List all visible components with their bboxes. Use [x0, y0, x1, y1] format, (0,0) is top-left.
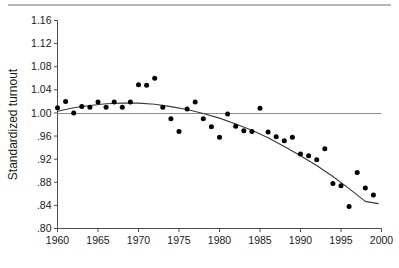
- data-point: [209, 124, 214, 129]
- data-point: [217, 135, 222, 140]
- data-point: [55, 105, 60, 110]
- data-point: [144, 83, 149, 88]
- data-point: [160, 105, 165, 110]
- data-point: [290, 135, 295, 140]
- x-axis-tick-label: 1990: [289, 234, 313, 246]
- y-axis-tick-label: 1.08: [31, 60, 52, 72]
- data-point: [152, 76, 157, 81]
- y-axis-tick-label: .88: [37, 176, 52, 188]
- x-axis-tick-label: 1970: [127, 234, 151, 246]
- data-point: [306, 153, 311, 158]
- data-point: [96, 99, 101, 104]
- data-point: [314, 157, 319, 162]
- y-axis-title: Standardized turnout: [6, 68, 20, 180]
- y-axis-tick-label: 1.00: [31, 107, 52, 119]
- fitted-trend-curve: [58, 103, 379, 204]
- data-point: [298, 151, 303, 156]
- data-point: [241, 128, 246, 133]
- y-axis-tick-label: 1.16: [31, 14, 52, 26]
- y-axis-tick-label: 1.12: [31, 37, 52, 49]
- x-axis-tick-label: 1975: [167, 234, 191, 246]
- data-point: [193, 99, 198, 104]
- data-point: [330, 181, 335, 186]
- data-point: [355, 170, 360, 175]
- data-point: [112, 99, 117, 104]
- scatter-plot-canvas: .80.84.88.92.961.001.041.081.121.1619601…: [0, 0, 399, 268]
- data-point: [266, 130, 271, 135]
- chart-figure: .80.84.88.92.961.001.041.081.121.1619601…: [0, 0, 399, 268]
- data-point: [363, 186, 368, 191]
- data-point: [347, 204, 352, 209]
- y-axis-tick-label: .92: [37, 153, 52, 165]
- data-point: [282, 138, 287, 143]
- data-point: [104, 105, 109, 110]
- data-point: [63, 99, 68, 104]
- y-axis-tick-label: 1.04: [31, 83, 52, 95]
- x-axis-tick-label: 1960: [46, 234, 70, 246]
- data-point: [233, 124, 238, 129]
- data-point: [128, 99, 133, 104]
- data-point: [79, 104, 84, 109]
- y-axis-tick-label: .96: [37, 130, 52, 142]
- data-point: [322, 146, 327, 151]
- data-point: [249, 129, 254, 134]
- data-point: [168, 116, 173, 121]
- x-axis-tick-label: 1985: [248, 234, 272, 246]
- x-axis-tick-label: 1980: [208, 234, 232, 246]
- data-point: [87, 105, 92, 110]
- data-point: [371, 192, 376, 197]
- x-axis-tick-label: 1965: [86, 234, 110, 246]
- data-point: [136, 82, 141, 87]
- data-point: [185, 106, 190, 111]
- data-point: [71, 110, 76, 115]
- data-point: [177, 129, 182, 134]
- data-point: [258, 106, 263, 111]
- data-point: [274, 134, 279, 139]
- y-axis-tick-label: .80: [37, 222, 52, 234]
- y-axis-tick-label: .84: [37, 199, 52, 211]
- data-point: [339, 183, 344, 188]
- x-axis-tick-label: 2000: [370, 234, 394, 246]
- data-point: [120, 105, 125, 110]
- x-axis-tick-label: 1995: [329, 234, 353, 246]
- data-point: [225, 112, 230, 117]
- data-point: [201, 116, 206, 121]
